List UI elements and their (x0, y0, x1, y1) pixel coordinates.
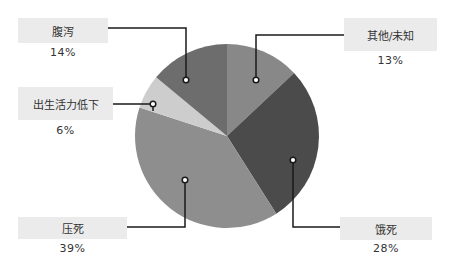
pct-weak: 6% (18, 124, 113, 137)
dot-weak (150, 101, 156, 107)
dot-diarrhea (183, 77, 189, 83)
pie-slices (135, 44, 319, 228)
label-starve: 饿死 (340, 217, 432, 240)
dot-starve (290, 157, 296, 163)
label-diarrhea-text: 腹泻 (52, 23, 74, 39)
pct-crush: 39% (18, 242, 127, 255)
label-crush: 压死 (18, 217, 127, 239)
pct-diarrhea: 14% (18, 46, 108, 59)
label-weak-text: 出生活力低下 (33, 96, 99, 112)
dot-other (253, 77, 259, 83)
dot-crush (182, 177, 188, 183)
label-weak: 出生活力低下 (18, 87, 113, 120)
pct-other: 13% (344, 54, 437, 67)
label-other: 其他/未知 (344, 18, 437, 51)
label-diarrhea: 腹泻 (18, 18, 108, 43)
label-crush-text: 压死 (62, 220, 84, 236)
label-starve-text: 饿死 (375, 221, 397, 237)
label-other-text: 其他/未知 (367, 27, 415, 43)
pct-starve: 28% (340, 242, 432, 255)
